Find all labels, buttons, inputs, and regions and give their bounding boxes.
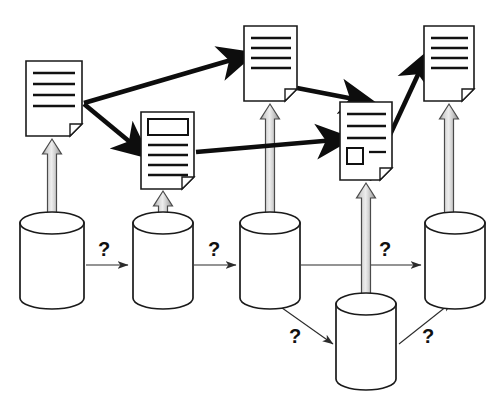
database-cylinder-2-top: [133, 212, 193, 234]
document-top-left[interactable]: [26, 61, 82, 136]
document-fourth[interactable]: [340, 102, 392, 180]
database-cylinder-2-body: [133, 223, 193, 309]
database-cylinder-3-top: [240, 212, 300, 234]
document-third[interactable]: [244, 26, 297, 101]
database-cylinder-4-body: [336, 304, 396, 390]
database-cylinder-4[interactable]: [336, 293, 396, 390]
database-cylinder-3-body: [240, 223, 300, 309]
document-second-header-box: [148, 119, 188, 135]
database-cylinder-3[interactable]: [240, 212, 300, 309]
question-mark-3: ?: [379, 238, 391, 260]
document-fourth-square-icon: [347, 148, 363, 164]
database-cylinder-1-top: [20, 212, 84, 234]
document-top-right[interactable]: [424, 26, 474, 101]
database-cylinder-2[interactable]: [133, 212, 193, 309]
question-mark-5: ?: [422, 325, 434, 347]
database-cylinder-5[interactable]: [425, 212, 485, 309]
provenance-diagram: ? ? ? ? ?: [0, 0, 501, 402]
database-cylinder-4-top: [336, 293, 396, 315]
question-mark-2: ?: [208, 238, 220, 260]
database-cylinder-5-body: [425, 223, 485, 309]
question-mark-1: ?: [98, 238, 110, 260]
database-cylinder-1-body: [20, 223, 84, 309]
document-second[interactable]: [141, 112, 194, 189]
question-mark-4: ?: [289, 325, 301, 347]
database-cylinder-5-top: [425, 212, 485, 234]
database-cylinder-1[interactable]: [20, 212, 84, 309]
diagram-canvas: ? ? ? ? ?: [0, 0, 501, 402]
